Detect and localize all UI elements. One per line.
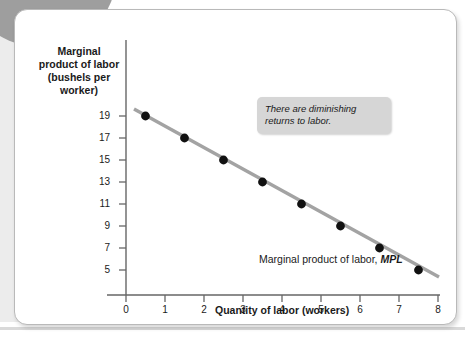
data-point <box>375 244 384 253</box>
x-tick-label: 7 <box>389 304 409 315</box>
data-point <box>219 156 228 165</box>
y-tick-label: 9 <box>90 220 110 231</box>
y-tick-label: 11 <box>90 198 110 209</box>
y-tick-label: 13 <box>90 176 110 187</box>
data-point <box>258 178 267 187</box>
mpl-line <box>134 109 439 277</box>
x-tick-marks <box>126 295 438 302</box>
y-tick-marks <box>119 116 126 270</box>
x-tick-label: 0 <box>116 304 136 315</box>
page-bottom-rule <box>0 327 465 330</box>
series-label-text: Marginal product of labor, <box>259 253 380 265</box>
y-axis-title-line-1: Marginal <box>27 45 131 58</box>
annotation-callout: There are diminishing returns to labor. <box>257 97 391 134</box>
y-axis-title-line-3: (bushels per <box>27 71 131 84</box>
y-axis-title-line-2: product of labor <box>27 58 131 71</box>
data-point <box>297 200 306 209</box>
x-axis-title: Quantity of labor (workers) <box>215 304 349 316</box>
series-label-symbol: MPL <box>380 253 402 265</box>
figure-root: Marginal product of labor (bushels per w… <box>0 0 465 344</box>
data-point <box>141 112 150 121</box>
y-axis-title-line-4: worker) <box>27 84 131 97</box>
x-tick-label: 1 <box>155 304 175 315</box>
data-point-markers <box>141 112 423 275</box>
data-point <box>336 222 345 231</box>
data-point <box>414 266 423 275</box>
y-tick-label: 15 <box>90 154 110 165</box>
chart-card: Marginal product of labor (bushels per w… <box>14 9 457 325</box>
x-tick-label: 6 <box>350 304 370 315</box>
y-axis-title: Marginal product of labor (bushels per w… <box>27 45 131 97</box>
y-tick-label: 5 <box>90 264 110 275</box>
data-point <box>180 134 189 143</box>
x-tick-label: 2 <box>194 304 214 315</box>
page-bottom-band <box>0 322 465 344</box>
y-tick-label: 19 <box>90 110 110 121</box>
y-tick-label: 17 <box>90 132 110 143</box>
x-tick-label: 8 <box>428 304 448 315</box>
series-label: Marginal product of labor, MPL <box>259 253 403 265</box>
y-tick-label: 7 <box>90 242 110 253</box>
